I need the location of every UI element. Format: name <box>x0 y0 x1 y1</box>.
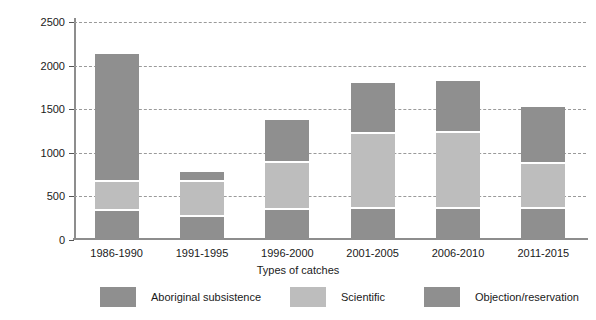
bar-segment[interactable] <box>436 81 480 133</box>
legend-label: Scientific <box>341 291 385 303</box>
bar-segment[interactable] <box>95 182 139 211</box>
chart-legend: Aboriginal subsistenceScientificObjectio… <box>0 286 596 314</box>
x-tick-label: 2011-2015 <box>517 247 569 259</box>
x-axis-title: Types of catches <box>0 264 596 276</box>
bar-segment[interactable] <box>180 182 224 218</box>
y-tick-mark <box>69 109 74 110</box>
bar-group-1996-2000[interactable] <box>265 120 309 240</box>
legend-label: Aboriginal subsistence <box>151 291 261 303</box>
gridline <box>74 66 586 67</box>
bar-segment[interactable] <box>521 107 565 164</box>
x-tick-label: 1991-1995 <box>176 247 229 259</box>
bar-group-1991-1995[interactable] <box>180 172 224 240</box>
whaling-catches-stacked-bar-chart: Mean annual number of whales caught 0500… <box>0 0 596 320</box>
bar-segment[interactable] <box>521 209 565 240</box>
legend-swatch <box>424 287 460 307</box>
bar-segment[interactable] <box>180 217 224 240</box>
gridline <box>74 109 586 110</box>
bar-segment[interactable] <box>180 172 224 181</box>
y-tick-label: 0 <box>59 234 65 246</box>
bar-segment[interactable] <box>436 133 480 208</box>
bar-segment[interactable] <box>265 163 309 210</box>
x-axis-line <box>73 238 588 240</box>
y-tick-mark <box>69 66 74 67</box>
gridline <box>74 153 586 154</box>
bar-group-2011-2015[interactable] <box>521 107 565 240</box>
bar-segment[interactable] <box>351 83 395 134</box>
plot-area: 05001000150020002500 1986-19901991-19951… <box>74 22 586 240</box>
legend-item-objection-reservation[interactable]: Objection/reservation <box>424 286 579 308</box>
bar-group-2001-2005[interactable] <box>351 83 395 240</box>
gridline <box>74 22 586 23</box>
x-tick-label: 2001-2005 <box>346 247 399 259</box>
bar-segment[interactable] <box>521 164 565 208</box>
bar-segment[interactable] <box>436 209 480 240</box>
legend-item-scientific[interactable]: Scientific <box>290 286 385 308</box>
bar-group-1986-1990[interactable] <box>95 54 139 240</box>
legend-label: Objection/reservation <box>475 291 579 303</box>
bar-segment[interactable] <box>351 134 395 209</box>
y-tick-mark <box>69 240 74 241</box>
plot-inner: 05001000150020002500 1986-19901991-19951… <box>74 22 586 240</box>
y-tick-mark <box>69 22 74 23</box>
legend-item-aboriginal-subsistence[interactable]: Aboriginal subsistence <box>100 286 261 308</box>
y-tick-label: 1500 <box>41 103 65 115</box>
legend-swatch <box>100 287 136 307</box>
x-tick-label: 1986-1990 <box>90 247 143 259</box>
bar-segment[interactable] <box>265 120 309 163</box>
bar-segment[interactable] <box>95 54 139 182</box>
y-tick-mark <box>69 153 74 154</box>
x-tick-label: 2006-2010 <box>432 247 485 259</box>
bar-segment[interactable] <box>95 211 139 240</box>
x-tick-label: 1996-2000 <box>261 247 314 259</box>
bar-segment[interactable] <box>351 209 395 240</box>
y-tick-label: 2000 <box>41 60 65 72</box>
y-tick-label: 500 <box>47 190 65 202</box>
y-tick-mark <box>69 196 74 197</box>
y-tick-label: 1000 <box>41 147 65 159</box>
y-tick-label: 2500 <box>41 16 65 28</box>
bar-group-2006-2010[interactable] <box>436 81 480 240</box>
y-axis-line <box>74 18 76 240</box>
gridline <box>74 196 586 197</box>
bar-segment[interactable] <box>265 210 309 240</box>
legend-swatch <box>290 287 326 307</box>
